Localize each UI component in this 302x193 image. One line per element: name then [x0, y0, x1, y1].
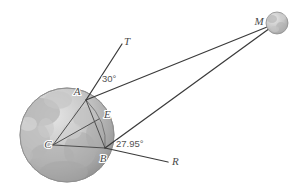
figure-root: A E C B T R M 30° 27.95°	[0, 0, 302, 193]
moon-sphere	[266, 12, 288, 34]
segment-A-to-M	[86, 23, 277, 100]
point-label-T: T	[124, 35, 131, 47]
point-label-C: C	[44, 138, 52, 150]
point-label-M: M	[253, 15, 264, 27]
angle-label-2795: 27.95°	[116, 138, 144, 149]
earth-sphere	[11, 88, 114, 183]
point-label-B: B	[100, 152, 107, 164]
geometry-diagram: A E C B T R M 30° 27.95°	[0, 0, 302, 193]
segment-B-to-M	[105, 23, 277, 148]
point-label-E: E	[103, 108, 111, 120]
segment-B-to-R	[105, 148, 168, 162]
angle-label-30: 30°	[102, 73, 117, 84]
segment-A-to-T	[86, 44, 122, 100]
point-label-R: R	[171, 155, 179, 167]
point-label-A: A	[73, 85, 81, 97]
